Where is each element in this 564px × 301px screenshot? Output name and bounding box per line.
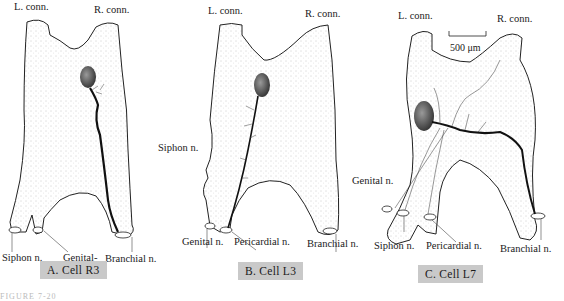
- label-b-siphon-n: Siphon n.: [158, 142, 198, 154]
- panel-a-ganglion: [9, 20, 133, 252]
- label-b-r-conn: R. conn.: [305, 8, 340, 20]
- caption-c-cell-l7: C. Cell L7: [418, 265, 483, 283]
- label-a-l-conn: L. conn.: [14, 1, 49, 13]
- caption-b-cell-l3: B. Cell L3: [238, 262, 303, 280]
- panel-c-ganglion: [382, 31, 545, 244]
- label-b-pericardial-n: Pericardial n.: [234, 236, 290, 248]
- figure-number-partial: FIGURE 7-20: [0, 292, 57, 301]
- caption-a-cell-r3: A. Cell R3: [40, 261, 107, 279]
- label-a-r-conn: R. conn.: [94, 4, 129, 16]
- cell-body-l3: [254, 73, 270, 97]
- label-a-siphon-n: Siphon n.: [2, 252, 42, 264]
- label-b-genital-n: Genital n.: [182, 236, 223, 248]
- label-b-l-conn: L. conn.: [208, 5, 243, 17]
- label-a-branchial-n: Branchial n.: [105, 253, 156, 265]
- label-c-siphon-n: Siphon n.: [374, 240, 414, 252]
- panel-b-ganglion: [203, 24, 338, 253]
- label-c-r-conn: R. conn.: [497, 13, 532, 25]
- scale-bar: [449, 31, 486, 36]
- label-c-pericardial-n: Pericardial n.: [426, 240, 482, 252]
- cell-body-r3: [80, 66, 96, 88]
- label-b-branchial-n: Branchial n.: [307, 238, 358, 250]
- label-c-branchial-n: Branchial n.: [500, 243, 551, 255]
- scale-bar-label: 500 μm: [450, 42, 481, 53]
- label-c-genital-n: Genital n.: [352, 175, 393, 187]
- cell-body-l7: [414, 101, 434, 131]
- label-c-l-conn: L. conn.: [398, 10, 433, 22]
